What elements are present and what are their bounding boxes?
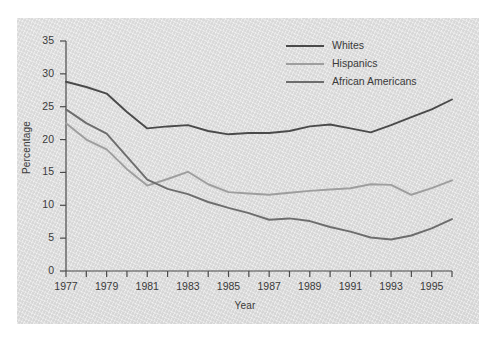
y-axis-ticks xyxy=(60,41,66,271)
x-tick-label: 1989 xyxy=(290,280,330,292)
y-tick-label: 25 xyxy=(28,100,54,112)
x-tick-label: 1985 xyxy=(209,280,249,292)
series-line-african-americans xyxy=(66,109,452,239)
x-tick-label: 1977 xyxy=(46,280,86,292)
y-tick-label: 15 xyxy=(28,165,54,177)
y-tick-label: 30 xyxy=(28,67,54,79)
legend-label-whites: Whites xyxy=(332,39,364,51)
x-tick-label: 1993 xyxy=(371,280,411,292)
y-tick-label: 20 xyxy=(28,133,54,145)
y-tick-label: 35 xyxy=(28,34,54,46)
x-tick-label: 1983 xyxy=(168,280,208,292)
x-axis-title: Year xyxy=(165,300,325,311)
x-axis-ticks xyxy=(66,271,452,277)
series-line-whites xyxy=(66,82,452,135)
x-tick-label: 1995 xyxy=(412,280,452,292)
x-tick-label: 1987 xyxy=(249,280,289,292)
x-tick-label: 1991 xyxy=(330,280,370,292)
legend-swatch-group xyxy=(286,46,324,82)
y-tick-label: 0 xyxy=(28,264,54,276)
y-tick-label: 10 xyxy=(28,198,54,210)
data-series-group xyxy=(66,82,452,240)
legend-label-african-americans: African Americans xyxy=(332,75,417,87)
legend-label-hispanics: Hispanics xyxy=(332,57,378,69)
x-tick-label: 1979 xyxy=(87,280,127,292)
x-tick-label: 1981 xyxy=(127,280,167,292)
y-tick-label: 5 xyxy=(28,231,54,243)
